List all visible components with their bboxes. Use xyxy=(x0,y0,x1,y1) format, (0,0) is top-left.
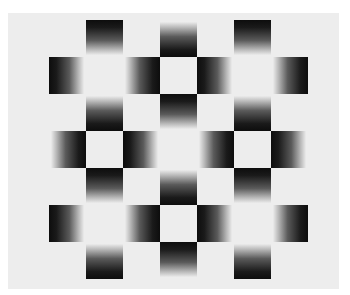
illusion-canvas xyxy=(0,0,350,295)
gradient-cell-dark-top xyxy=(86,20,123,57)
gradient-cell-dark-top xyxy=(160,242,197,279)
gradient-cell-dark-right xyxy=(197,131,234,168)
gradient-cell-dark-bottom xyxy=(86,242,123,279)
gradient-cell-dark-right xyxy=(123,205,160,242)
gradient-cell-dark-right xyxy=(49,131,86,168)
gradient-cell-dark-bottom xyxy=(86,94,123,131)
gradient-cell-dark-top xyxy=(160,94,197,131)
gradient-cell-dark-top xyxy=(86,168,123,205)
gradient-cell-dark-right xyxy=(271,57,308,94)
gradient-cell-dark-left xyxy=(49,57,86,94)
gradient-cell-dark-bottom xyxy=(234,242,271,279)
gradient-checkerboard-grid xyxy=(49,20,308,279)
gradient-cell-dark-left xyxy=(123,131,160,168)
gradient-cell-dark-bottom xyxy=(160,20,197,57)
gradient-cell-dark-left xyxy=(271,131,308,168)
gradient-cell-dark-top xyxy=(234,168,271,205)
gradient-cell-dark-right xyxy=(271,205,308,242)
gradient-cell-dark-top xyxy=(234,20,271,57)
gradient-cell-dark-bottom xyxy=(234,94,271,131)
gradient-cell-dark-left xyxy=(197,57,234,94)
gradient-cell-dark-left xyxy=(197,205,234,242)
gradient-cell-dark-right xyxy=(123,57,160,94)
gradient-cell-dark-left xyxy=(49,205,86,242)
gradient-cell-dark-bottom xyxy=(160,168,197,205)
